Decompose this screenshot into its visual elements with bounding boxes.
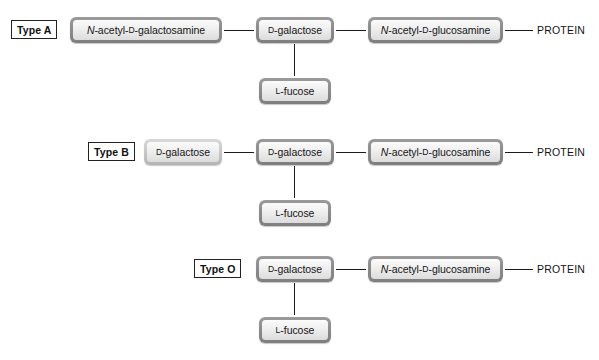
- connector-a-terminal-core: [224, 30, 254, 31]
- blood-type-antigen-diagram: Type A N-acetyl-D-galactosamine D-galact…: [0, 0, 599, 360]
- link-b-tail: -glucosamine: [428, 147, 490, 158]
- link-o-italic-n: N: [381, 264, 389, 275]
- sugar-box-b-terminal: D-galactose: [144, 139, 222, 165]
- connector-b-link-protein: [505, 152, 533, 153]
- terminal-a-tail: -galactosamine: [135, 25, 206, 36]
- link-o-rest: -acetyl-: [388, 264, 422, 275]
- sugar-box-a-branch-label: L-fucose: [262, 81, 328, 101]
- sugar-box-a-terminal: N-acetyl-D-galactosamine: [70, 17, 222, 43]
- connector-o-link-protein: [505, 269, 533, 270]
- type-label-a: Type A: [11, 20, 57, 39]
- core-a-tail: -galactose: [274, 25, 322, 36]
- connector-a-core-link: [336, 30, 366, 31]
- sugar-box-b-core: D-galactose: [256, 139, 334, 165]
- core-o-tail: -galactose: [274, 264, 322, 275]
- sugar-box-a-terminal-label: N-acetyl-D-galactosamine: [73, 20, 219, 40]
- sugar-box-o-core: D-galactose: [256, 256, 334, 282]
- type-label-b-text: Type B: [94, 146, 129, 158]
- sugar-box-b-core-label: D-galactose: [259, 142, 331, 162]
- type-label-o: Type O: [194, 259, 241, 278]
- connector-a-core-branch: [294, 44, 295, 76]
- link-a-rest: -acetyl-: [388, 25, 422, 36]
- sugar-box-a-core-label: D-galactose: [259, 20, 331, 40]
- type-label-b: Type B: [88, 142, 135, 161]
- branch-a-tail: -fucose: [280, 86, 314, 97]
- type-label-o-text: Type O: [200, 263, 235, 275]
- protein-label-o: PROTEIN: [537, 264, 585, 275]
- connector-b-terminal-core: [224, 152, 254, 153]
- sugar-box-b-branch: L-fucose: [259, 200, 331, 226]
- sugar-box-o-branch-label: L-fucose: [262, 320, 328, 340]
- branch-b-tail: -fucose: [280, 208, 314, 219]
- protein-label-b: PROTEIN: [537, 147, 585, 158]
- sugar-box-b-link-label: N-acetyl-D-glucosamine: [371, 142, 500, 162]
- sugar-box-a-link-label: N-acetyl-D-glucosamine: [371, 20, 500, 40]
- sugar-box-o-core-label: D-galactose: [259, 259, 331, 279]
- sugar-box-o-branch: L-fucose: [259, 317, 331, 343]
- connector-b-core-link: [336, 152, 366, 153]
- terminal-a-rest: -acetyl-: [94, 25, 128, 36]
- sugar-box-b-branch-label: L-fucose: [262, 203, 328, 223]
- terminal-a-italic-n: N: [87, 25, 95, 36]
- connector-a-link-protein: [505, 30, 533, 31]
- link-a-tail: -glucosamine: [428, 25, 490, 36]
- branch-o-tail: -fucose: [280, 325, 314, 336]
- sugar-box-a-branch: L-fucose: [259, 78, 331, 104]
- connector-o-core-link: [336, 269, 366, 270]
- connector-b-core-branch: [294, 166, 295, 198]
- sugar-box-o-link: N-acetyl-D-glucosamine: [368, 256, 503, 282]
- link-b-italic-n: N: [381, 147, 389, 158]
- link-o-tail: -glucosamine: [428, 264, 490, 275]
- connector-o-core-branch: [294, 283, 295, 315]
- link-a-italic-n: N: [381, 25, 389, 36]
- type-label-a-text: Type A: [17, 24, 51, 36]
- protein-label-a: PROTEIN: [537, 25, 585, 36]
- sugar-box-b-link: N-acetyl-D-glucosamine: [368, 139, 503, 165]
- terminal-b-tail: -galactose: [162, 147, 210, 158]
- sugar-box-a-core: D-galactose: [256, 17, 334, 43]
- sugar-box-b-terminal-label: D-galactose: [147, 142, 219, 162]
- link-b-rest: -acetyl-: [388, 147, 422, 158]
- sugar-box-o-link-label: N-acetyl-D-glucosamine: [371, 259, 500, 279]
- sugar-box-a-link: N-acetyl-D-glucosamine: [368, 17, 503, 43]
- core-b-tail: -galactose: [274, 147, 322, 158]
